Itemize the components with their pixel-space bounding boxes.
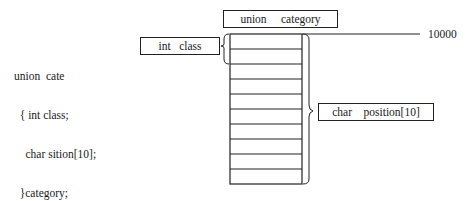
memory-cell-dividers — [230, 49, 302, 169]
address-label: 10000 — [428, 28, 457, 40]
char-position-brace-icon — [303, 34, 313, 184]
int-class-label-box: int class — [140, 37, 220, 55]
memory-diagram — [0, 0, 470, 201]
int-class-brace-icon — [221, 34, 229, 64]
union-label-box: union category — [223, 10, 338, 28]
char-position-label-box: char position[10] — [318, 103, 434, 121]
